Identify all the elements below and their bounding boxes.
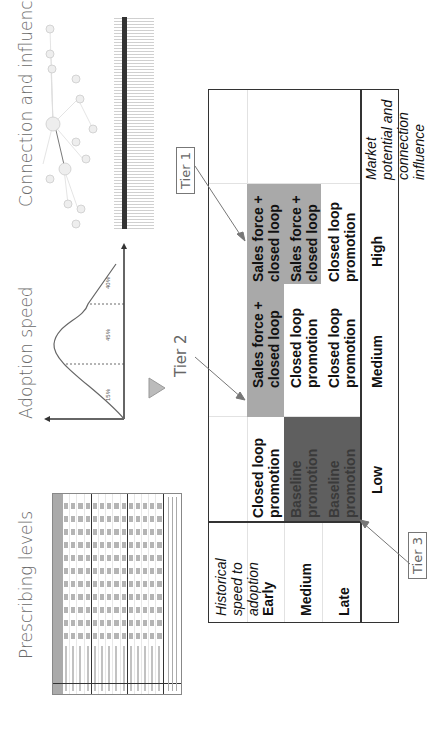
slide: Prescribing levels Adoption speed Connec… xyxy=(0,0,447,729)
tier-arrows xyxy=(0,0,447,729)
